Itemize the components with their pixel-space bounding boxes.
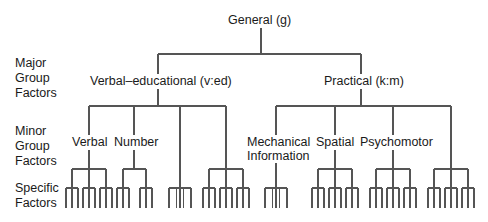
row-label-line: Specific (15, 181, 59, 196)
node-number: Number (113, 135, 159, 150)
row-label-line: Minor (15, 124, 57, 139)
hierarchy-diagram (0, 0, 488, 222)
node-psychomotor: Psychomotor (359, 135, 434, 150)
row-label-line: Group (15, 71, 57, 86)
row-label-line: Factors (15, 154, 57, 169)
node-label-line: Information (247, 149, 310, 163)
node-verbal-educational: Verbal–educational (v:ed) (89, 74, 233, 89)
node-spatial: Spatial (315, 135, 355, 150)
node-verbal: Verbal (71, 135, 108, 150)
row-label-minor-group-factors: Minor Group Factors (15, 124, 57, 169)
node-mechanical-information: Mechanical Information (246, 135, 311, 163)
row-label-major-group-factors: Major Group Factors (15, 56, 57, 101)
node-practical: Practical (k:m) (323, 74, 405, 89)
row-label-line: Major (15, 56, 57, 71)
row-label-line: Group (15, 139, 57, 154)
row-label-specific-factors: Specific Factors (15, 181, 59, 211)
node-general: General (g) (227, 13, 292, 28)
row-label-line: Factors (15, 86, 57, 101)
tree-edges (66, 28, 474, 208)
row-label-line: Factors (15, 196, 59, 211)
node-label-line: Mechanical (247, 135, 310, 149)
